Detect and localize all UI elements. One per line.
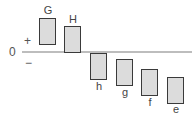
bar-H — [64, 26, 81, 53]
bar-h — [90, 53, 107, 80]
bar-g — [116, 59, 133, 86]
bar-label-f: f — [142, 97, 158, 108]
minus-label: − — [25, 57, 32, 69]
plus-label: + — [24, 35, 31, 47]
bar-label-e: e — [168, 104, 184, 115]
bar-e — [167, 77, 184, 104]
bar-label-H: H — [65, 14, 81, 25]
bar-f — [141, 69, 158, 96]
bar-label-h: h — [91, 81, 107, 92]
bar-label-G: G — [40, 5, 56, 16]
bar-G — [39, 18, 56, 45]
bar-label-g: g — [117, 87, 133, 98]
zero-label: 0 — [9, 46, 16, 58]
zero-baseline — [22, 51, 192, 53]
